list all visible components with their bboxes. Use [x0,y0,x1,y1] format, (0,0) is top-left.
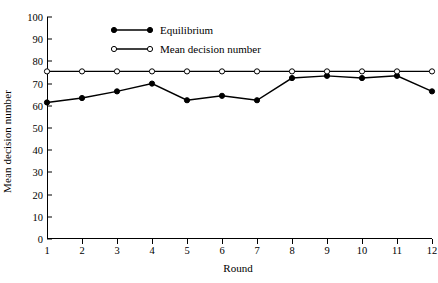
data-point-open-circle [394,69,399,74]
data-point-open-circle [44,69,49,74]
data-point-open-circle [219,69,224,74]
x-tick-label: 11 [392,245,402,256]
data-point-filled-circle [219,93,224,98]
data-point-open-circle [79,69,84,74]
x-tick-mark [432,239,433,244]
data-point-filled-circle [79,95,84,100]
x-tick-mark [82,239,83,244]
y-tick-label: 70 [33,78,48,89]
x-tick-label: 12 [427,245,438,256]
data-point-filled-circle [429,89,434,94]
legend-marker-open-circle [110,43,154,55]
data-point-open-circle [114,69,119,74]
chart-legend: Equilibrium Mean decision number [110,20,261,58]
data-point-open-circle [289,69,294,74]
data-point-filled-circle [114,89,119,94]
x-axis-title: Round [40,262,436,274]
y-tick-label: 80 [33,56,48,67]
series-line [47,76,432,103]
x-tick-label: 3 [114,245,119,256]
data-point-open-circle [149,69,154,74]
x-tick-mark [362,239,363,244]
data-point-filled-circle [289,75,294,80]
x-tick-label: 8 [289,245,294,256]
x-tick-mark [327,239,328,244]
x-tick-label: 9 [324,245,329,256]
x-tick-mark [117,239,118,244]
x-tick-mark [257,239,258,244]
x-tick-label: 4 [149,245,154,256]
legend-item-mean-decision-number: Mean decision number [110,39,261,58]
x-tick-label: 1 [44,245,49,256]
y-tick-label: 50 [33,123,48,134]
x-tick-label: 6 [219,245,224,256]
y-axis-title: Mean decision number [0,0,14,283]
data-point-filled-circle [44,100,49,105]
x-tick-label: 10 [357,245,368,256]
y-tick-label: 40 [33,145,48,156]
y-tick-label: 100 [27,12,47,23]
x-tick-label: 7 [254,245,259,256]
data-point-filled-circle [254,98,259,103]
x-tick-mark [397,239,398,244]
chart-figure: Mean decision number 0102030405060708090… [0,0,438,283]
x-tick-mark [292,239,293,244]
x-tick-label: 5 [184,245,189,256]
data-point-filled-circle [149,81,154,86]
x-tick-label: 2 [79,245,84,256]
data-point-filled-circle [184,98,189,103]
data-point-open-circle [184,69,189,74]
x-tick-mark [152,239,153,244]
y-tick-label: 30 [33,167,48,178]
data-point-open-circle [359,69,364,74]
data-point-open-circle [254,69,259,74]
legend-label: Equilibrium [160,24,213,36]
data-point-filled-circle [359,75,364,80]
y-tick-label: 20 [33,189,48,200]
x-tick-mark [222,239,223,244]
x-tick-mark [187,239,188,244]
data-point-open-circle [324,69,329,74]
legend-marker-filled-circle [110,24,154,36]
y-tick-label: 90 [33,34,48,45]
legend-item-equilibrium: Equilibrium [110,20,261,39]
y-tick-label: 0 [38,234,47,245]
legend-label: Mean decision number [160,43,261,55]
y-tick-label: 10 [33,211,48,222]
data-point-open-circle [429,69,434,74]
